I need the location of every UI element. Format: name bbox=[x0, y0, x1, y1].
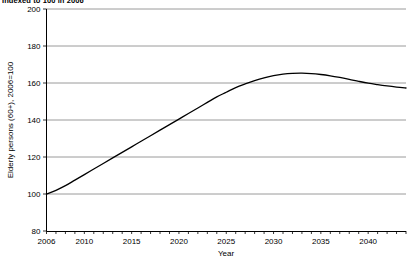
y-tick-label: 100 bbox=[27, 190, 41, 199]
line-chart: 20018016014012010080 2006201020152020202… bbox=[0, 0, 411, 260]
y-tick-label: 140 bbox=[27, 116, 41, 125]
x-axis-ticks: 20062010201520202025203020352040 bbox=[38, 231, 406, 246]
y-axis-ticks: 20018016014012010080 bbox=[27, 5, 46, 236]
y-tick-label: 160 bbox=[27, 79, 41, 88]
x-tick-label: 2006 bbox=[38, 237, 56, 246]
x-tick-label: 2030 bbox=[265, 237, 283, 246]
x-tick-label: 2025 bbox=[217, 237, 235, 246]
x-tick-label: 2040 bbox=[359, 237, 377, 246]
y-tick-label: 120 bbox=[27, 153, 41, 162]
x-tick-label: 2035 bbox=[312, 237, 330, 246]
x-tick-label: 2020 bbox=[170, 237, 188, 246]
data-series-line bbox=[47, 73, 407, 194]
x-tick-label: 2010 bbox=[75, 237, 93, 246]
chart-container: Indexed to 100 in 2006 20018016014012010… bbox=[0, 0, 411, 260]
x-tick-label: 2015 bbox=[123, 237, 141, 246]
y-tick-label: 200 bbox=[27, 5, 41, 14]
y-tick-label: 180 bbox=[27, 42, 41, 51]
gridlines bbox=[47, 9, 407, 194]
x-axis-title: Year bbox=[218, 249, 235, 258]
y-axis-title: Elderly persons (60+), 2006=100 bbox=[6, 61, 15, 178]
y-tick-label: 80 bbox=[32, 227, 41, 236]
